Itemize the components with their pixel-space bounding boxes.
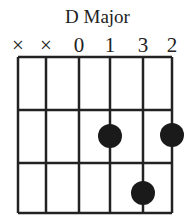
finger-dot-string4-fret2 (98, 124, 122, 148)
finger-dot-string5-fret3 (131, 181, 155, 205)
fretboard-grid (0, 0, 195, 223)
finger-dot-string6-fret2 (160, 123, 184, 147)
